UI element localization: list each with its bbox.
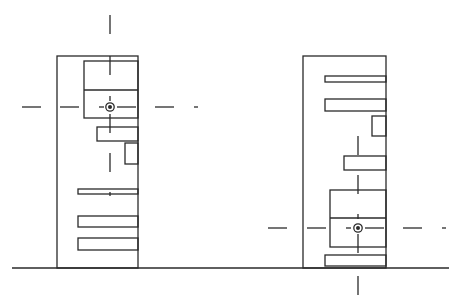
left-bar-4 (78, 238, 138, 250)
left-bar-1 (97, 127, 138, 141)
left-target-icon (106, 103, 114, 111)
left-bar-2 (78, 189, 138, 194)
left-small-box (125, 143, 138, 164)
left-bar-3 (78, 216, 138, 227)
right-target-icon (354, 224, 362, 232)
right-bar-4 (325, 255, 386, 266)
right-bar-2 (325, 99, 386, 111)
right-building (268, 56, 446, 295)
right-bar-3 (344, 156, 386, 170)
left-building-outline (57, 56, 138, 268)
right-small-box (372, 116, 386, 136)
elevation-diagram (0, 0, 461, 304)
right-bar-1 (325, 76, 386, 82)
left-building (22, 15, 198, 268)
